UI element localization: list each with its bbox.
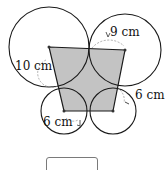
vertex-top-left xyxy=(48,46,51,49)
circles-quadrilateral-diagram: 10 cm 9 cm 6 cm 6 cm xyxy=(0,0,168,170)
shaded-quadrilateral xyxy=(49,47,125,111)
angle-arc-top-right xyxy=(92,40,124,48)
arrow-bottom-right xyxy=(125,102,129,104)
label-top-right: 9 cm xyxy=(110,25,140,39)
vertex-bottom-left xyxy=(63,110,66,113)
vertex-bottom-right xyxy=(112,110,115,113)
answer-input[interactable] xyxy=(46,157,98,170)
angle-arc-bottom-right xyxy=(120,90,124,103)
arrow-bottom-left xyxy=(77,120,80,126)
label-bottom-right: 6 cm xyxy=(135,88,165,102)
vertex-top-right xyxy=(124,49,127,52)
label-bottom-left: 6 cm xyxy=(43,115,73,129)
label-top-left: 10 cm xyxy=(15,59,53,73)
